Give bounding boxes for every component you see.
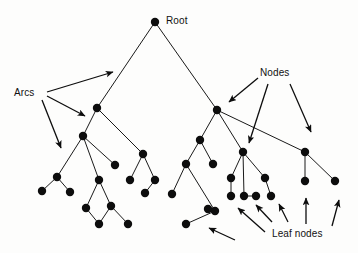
tree-arc [155, 22, 217, 110]
tree-arc [97, 108, 143, 154]
tree-arc [86, 180, 99, 208]
tree-node [182, 160, 190, 168]
tree-node [82, 204, 90, 212]
arcs-annotation-arrow [42, 100, 61, 148]
tree-node [53, 173, 61, 181]
tree-arc [172, 164, 186, 194]
tree-node [252, 192, 260, 200]
tree-node [209, 160, 217, 168]
tree-node [331, 177, 339, 185]
tree-node [141, 189, 149, 197]
tree-node [182, 220, 190, 228]
tree-node [196, 136, 204, 144]
tree-node [126, 176, 134, 184]
leaf-nodes-annotation-arrow [332, 200, 339, 226]
tree-arc [57, 136, 83, 177]
tree-diagram: Root Arcs Nodes Leaf nodes [0, 0, 358, 253]
tree-node [240, 192, 248, 200]
tree-node [227, 192, 235, 200]
tree-node [95, 220, 103, 228]
tree-arc [97, 22, 155, 108]
nodes-annotation-arrow [229, 78, 258, 102]
root-node [151, 18, 159, 26]
tree-arc [186, 164, 215, 211]
nodes-annotation-arrow [290, 84, 311, 132]
leaf-nodes-annotation-arrow [256, 205, 272, 222]
tree-node [93, 104, 101, 112]
tree-node [66, 188, 74, 196]
tree-arc [231, 152, 243, 178]
tree-arc [243, 152, 244, 196]
tree-arc [243, 152, 265, 178]
tree-node [124, 220, 132, 228]
leaf-nodes-annotation-arrow [209, 228, 235, 240]
arcs-annotation-arrow [47, 72, 113, 92]
tree-arc [130, 154, 143, 180]
tree-arc [99, 180, 111, 206]
leaf-nodes-annotation-arrow [238, 208, 265, 232]
tree-node [239, 148, 247, 156]
tree-node [267, 192, 275, 200]
root-label: Root [166, 16, 188, 26]
arcs-layer [42, 22, 335, 224]
leaf-nodes-annotation-arrow [279, 204, 288, 222]
tree-node [227, 174, 235, 182]
tree-node [151, 176, 159, 184]
tree-node [261, 174, 269, 182]
tree-arc [305, 152, 335, 181]
tree-node [213, 106, 221, 114]
tree-arc [186, 211, 215, 224]
tree-arc [83, 108, 97, 136]
nodes-label: Nodes [260, 68, 289, 78]
nodes-annotation-arrow [249, 84, 268, 143]
tree-node [301, 148, 309, 156]
tree-node [211, 207, 219, 215]
tree-node [168, 190, 176, 198]
nodes-layer [38, 18, 339, 228]
tree-node [111, 161, 119, 169]
leaf-nodes-label: Leaf nodes [272, 229, 323, 239]
tree-node [38, 187, 46, 195]
tree-arc [143, 154, 155, 180]
tree-node [107, 202, 115, 210]
tree-node [301, 177, 309, 185]
tree-node [79, 132, 87, 140]
arcs-annotation-arrow [47, 96, 85, 116]
tree-node [139, 150, 147, 158]
tree-node [95, 176, 103, 184]
tree-arc [200, 110, 217, 140]
tree-graphic [0, 0, 358, 253]
arcs-label: Arcs [14, 88, 34, 98]
